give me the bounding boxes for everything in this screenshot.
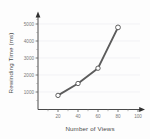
data-point-markers [56, 25, 121, 98]
x-tick-label: 20 [55, 114, 61, 119]
x-tick-labels: 20 40 60 80 100 [55, 114, 142, 119]
y-tick-label: 3000 [24, 56, 35, 61]
series-line-rewinding-time [58, 27, 118, 95]
data-point[interactable] [96, 66, 100, 70]
y-tick-labels: 1000 2000 3000 4000 5000 [24, 22, 35, 95]
y-axis [36, 12, 41, 110]
y-tick-label: 5000 [24, 22, 35, 27]
line-chart: 1000 2000 3000 4000 5000 20 40 60 80 100… [0, 0, 150, 139]
data-point[interactable] [56, 93, 60, 97]
y-tick-label: 2000 [24, 73, 35, 78]
gridlines-horizontal [38, 24, 140, 92]
x-tick-label: 40 [75, 114, 81, 119]
x-axis-title: Number of Views [65, 125, 114, 132]
y-axis-title: Rewinding Time (ms) [7, 33, 14, 94]
x-tick-label: 80 [115, 114, 121, 119]
x-tick-label: 60 [95, 114, 101, 119]
x-tick-label: 100 [134, 114, 142, 119]
y-tick-label: 4000 [24, 39, 35, 44]
data-point[interactable] [116, 25, 121, 30]
x-axis-arrow-icon [139, 107, 145, 112]
x-axis [38, 107, 145, 112]
chart-container: 1000 2000 3000 4000 5000 20 40 60 80 100… [0, 0, 150, 139]
y-axis-arrow-icon [36, 12, 41, 18]
y-tick-label: 1000 [24, 90, 35, 95]
data-point[interactable] [76, 81, 80, 85]
